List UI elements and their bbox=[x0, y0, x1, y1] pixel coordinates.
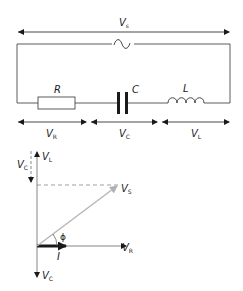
inductor-icon bbox=[168, 98, 204, 103]
circuit-wires bbox=[17, 44, 230, 103]
ac-source-icon bbox=[114, 40, 130, 49]
resistor-icon bbox=[38, 97, 75, 109]
phasor-vr-label: VR bbox=[122, 242, 133, 254]
inductor-label: L bbox=[183, 83, 189, 94]
rlc-diagram: Vs R C L VR VC VL bbox=[0, 0, 243, 291]
resistor-label: R bbox=[54, 84, 61, 95]
vc-label: VC bbox=[119, 128, 130, 140]
vs-label: Vs bbox=[119, 17, 129, 29]
capacitor-icon bbox=[117, 92, 128, 114]
current-label: I bbox=[57, 251, 60, 262]
diagram-canvas: Vs R C L VR VC VL bbox=[0, 0, 243, 291]
phasor-vc-top-label: VC bbox=[17, 159, 28, 171]
phase-angle-label: ϕ bbox=[60, 232, 66, 242]
phasor-vs-label: VS bbox=[121, 183, 132, 195]
capacitor-label: C bbox=[132, 84, 139, 95]
vr-label: VR bbox=[46, 128, 57, 140]
phasor-diagram bbox=[31, 151, 126, 277]
phasor-vc-bottom-label: VC bbox=[42, 270, 53, 282]
phasor-vl-label: VL bbox=[42, 151, 53, 163]
vl-label: VL bbox=[191, 128, 202, 140]
